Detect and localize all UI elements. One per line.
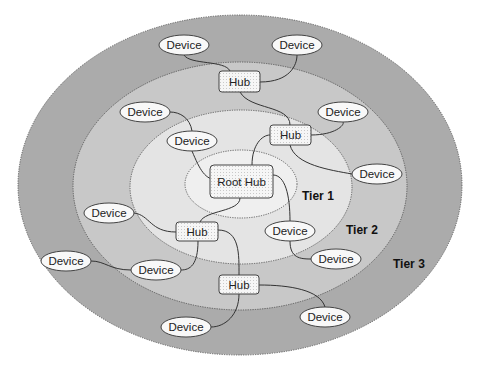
device-label: Device (307, 311, 342, 323)
device-node[interactable]: Device (131, 260, 181, 280)
device-label: Device (138, 264, 173, 276)
device-label: Device (127, 106, 162, 118)
tier1-label: Tier 1 (302, 189, 334, 203)
device-label: Device (48, 255, 83, 267)
hub-node[interactable]: Hub (176, 222, 218, 241)
device-node[interactable]: Device (272, 35, 322, 55)
device-node[interactable]: Device (265, 221, 315, 241)
hub-label: Hub (229, 76, 250, 88)
device-node[interactable]: Device (161, 317, 211, 337)
device-node[interactable]: Device (159, 35, 209, 55)
device-node[interactable]: Device (167, 131, 217, 151)
hub-node[interactable]: Hub (219, 275, 259, 294)
device-label: Device (279, 39, 314, 51)
device-label: Device (359, 168, 394, 180)
hub-label: Hub (228, 279, 249, 291)
device-label: Device (174, 135, 209, 147)
device-label: Device (166, 39, 201, 51)
device-node[interactable]: Device (84, 203, 134, 223)
hub-label: Hub (280, 129, 301, 141)
device-node[interactable]: Device (300, 307, 350, 327)
root-hub-label: Root Hub (217, 176, 266, 188)
device-label: Device (318, 253, 353, 265)
device-label: Device (272, 225, 307, 237)
root-hub-node[interactable]: Root Hub (210, 165, 273, 198)
usb-topology-diagram: Root HubHubHubHubHubDeviceDeviceDeviceDe… (0, 0, 478, 372)
hub-label: Hub (186, 226, 207, 238)
device-node[interactable]: Device (311, 249, 361, 269)
device-node[interactable]: Device (318, 102, 368, 122)
tier3-label: Tier 3 (393, 257, 425, 271)
device-label: Device (325, 106, 360, 118)
device-node[interactable]: Device (41, 251, 91, 271)
tier2-label: Tier 2 (346, 223, 378, 237)
device-node[interactable]: Device (352, 164, 402, 184)
device-node[interactable]: Device (120, 102, 170, 122)
device-label: Device (91, 207, 126, 219)
hub-node[interactable]: Hub (219, 71, 260, 92)
device-label: Device (168, 321, 203, 333)
hub-node[interactable]: Hub (270, 125, 311, 145)
